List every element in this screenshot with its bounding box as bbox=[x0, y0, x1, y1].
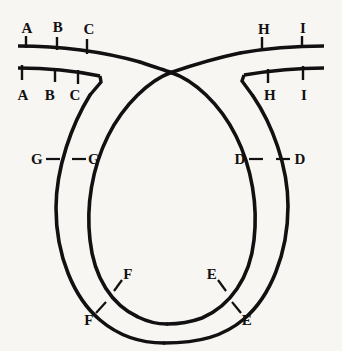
upper-right-inner-rail bbox=[244, 68, 324, 75]
diagram-canvas: A B C A B C H I H I G G D D F F E E bbox=[0, 0, 342, 351]
label-g-outer: G bbox=[31, 152, 43, 167]
label-g-inner: G bbox=[88, 152, 100, 167]
upper-left-notch bbox=[90, 76, 101, 95]
label-upper-left-a: A bbox=[21, 21, 32, 36]
label-f-inner: F bbox=[123, 267, 132, 282]
label-upper-left-b: B bbox=[53, 20, 63, 35]
label-d-inner: D bbox=[234, 152, 245, 167]
leader-f-outer bbox=[96, 302, 106, 313]
upper-right-notch bbox=[242, 75, 253, 96]
upper-left-outer-strand bbox=[140, 62, 171, 73]
label-lower-left-a: A bbox=[17, 88, 28, 103]
diagram-svg bbox=[0, 0, 342, 351]
outer-loop-right bbox=[164, 96, 288, 343]
leader-f-inner bbox=[114, 280, 122, 291]
upper-right-outer-strand bbox=[171, 53, 240, 73]
leader-e-inner bbox=[218, 280, 226, 291]
label-e-inner: E bbox=[207, 267, 217, 282]
label-lower-left-c: C bbox=[69, 88, 80, 103]
label-lower-right-h: H bbox=[264, 88, 276, 103]
leader-e-outer bbox=[232, 302, 241, 313]
label-f-outer: F bbox=[84, 313, 93, 328]
label-e-outer: E bbox=[242, 313, 252, 328]
label-upper-left-c: C bbox=[83, 22, 94, 37]
label-d-outer: D bbox=[294, 152, 305, 167]
label-lower-right-i: I bbox=[301, 88, 307, 103]
upper-left-outer-rail bbox=[18, 46, 140, 62]
label-upper-right-h: H bbox=[258, 22, 270, 37]
label-lower-left-b: B bbox=[45, 88, 55, 103]
upper-right-outer-rail bbox=[240, 46, 324, 53]
inner-loop-right bbox=[167, 73, 255, 325]
label-upper-right-i: I bbox=[300, 21, 306, 36]
inner-loop-left bbox=[89, 73, 171, 325]
upper-left-inner-rail bbox=[18, 68, 100, 76]
